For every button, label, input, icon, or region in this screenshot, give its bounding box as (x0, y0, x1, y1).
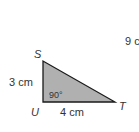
side-su-label: 3 cm (9, 76, 33, 88)
side-ut-label: 4 cm (60, 106, 84, 118)
vertex-s-label: S (34, 48, 42, 60)
partial-label: 9 c (125, 35, 139, 47)
triangle-diagram: S U T 3 cm 4 cm 90° 9 c (0, 0, 139, 132)
right-angle-label: 90° (49, 90, 63, 100)
vertex-t-label: T (119, 100, 127, 112)
vertex-u-label: U (31, 106, 39, 118)
